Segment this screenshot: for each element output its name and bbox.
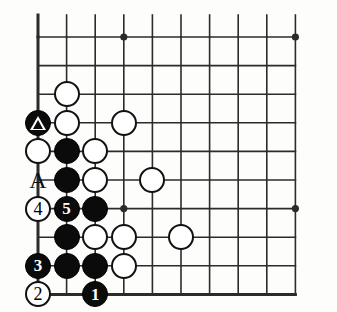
stone-black[interactable] bbox=[54, 167, 80, 193]
point-label-a: A bbox=[25, 167, 51, 193]
star-point bbox=[292, 205, 299, 212]
stone-black[interactable] bbox=[54, 224, 80, 250]
stone-white[interactable] bbox=[111, 110, 137, 136]
triangle-icon bbox=[30, 116, 46, 130]
stone-black[interactable] bbox=[82, 196, 108, 222]
stone-move-number: 3 bbox=[34, 257, 43, 274]
stone-black[interactable] bbox=[82, 253, 108, 279]
stone-move-number: 4 bbox=[34, 199, 43, 217]
stone-white-move-4[interactable]: 4 bbox=[25, 196, 51, 222]
go-diagram: 45321 A bbox=[0, 0, 337, 312]
stone-black-move-3[interactable]: 3 bbox=[25, 253, 51, 279]
stone-move-number: 5 bbox=[62, 200, 71, 217]
stone-black-marked-triangle[interactable] bbox=[25, 110, 51, 136]
stone-white[interactable] bbox=[54, 81, 80, 107]
stone-white[interactable] bbox=[54, 110, 80, 136]
stone-white[interactable] bbox=[111, 253, 137, 279]
star-point bbox=[120, 33, 127, 40]
stone-black[interactable] bbox=[54, 138, 80, 164]
stone-black-move-5[interactable]: 5 bbox=[54, 196, 80, 222]
star-point bbox=[120, 205, 127, 212]
stone-white[interactable] bbox=[111, 224, 137, 250]
stone-white[interactable] bbox=[82, 167, 108, 193]
stone-black[interactable] bbox=[54, 253, 80, 279]
stone-move-number: 1 bbox=[91, 285, 100, 302]
stone-white[interactable] bbox=[168, 224, 194, 250]
stone-move-number: 2 bbox=[34, 285, 43, 303]
star-point bbox=[292, 33, 299, 40]
